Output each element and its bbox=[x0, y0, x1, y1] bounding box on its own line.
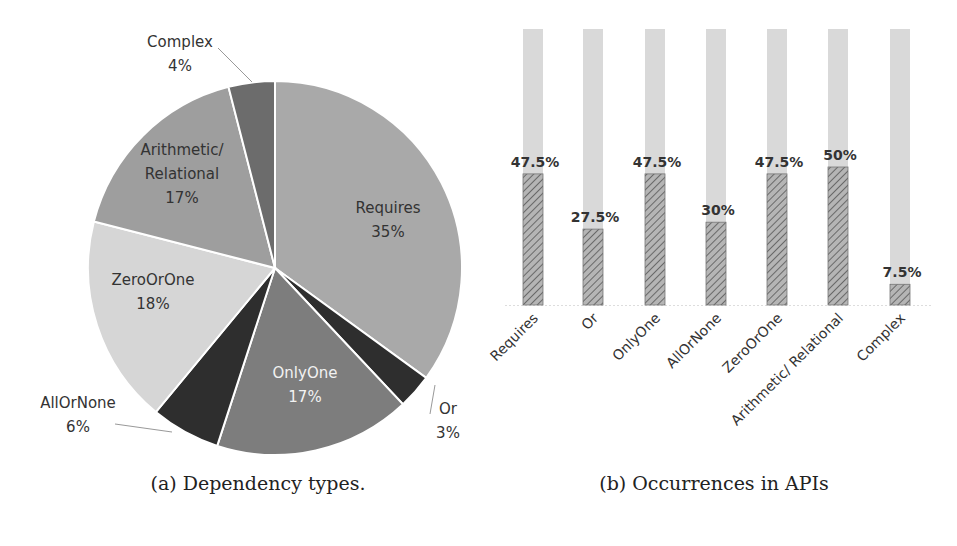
x-tick-label: Requires bbox=[487, 310, 541, 364]
pie-label-complex: Complex4% bbox=[147, 33, 213, 75]
x-tick-label: AllOrNone bbox=[663, 310, 724, 371]
bar-requires bbox=[523, 174, 543, 305]
x-tick-label: Complex bbox=[853, 310, 908, 365]
x-tick-label: ZeroOrOne bbox=[719, 310, 785, 376]
bar-value-label: 27.5% bbox=[571, 209, 620, 225]
bar-value-label: 50% bbox=[823, 147, 857, 163]
bar-or bbox=[583, 229, 603, 305]
bar-onlyone bbox=[645, 174, 665, 305]
caption-b: (b) Occurrences in APIs bbox=[599, 472, 829, 494]
x-tick-label: OnlyOne bbox=[609, 310, 663, 364]
bar-value-label: 30% bbox=[701, 202, 735, 218]
leader-line bbox=[430, 385, 435, 414]
bar-value-label: 47.5% bbox=[511, 154, 560, 170]
bar-value-label: 47.5% bbox=[755, 154, 804, 170]
pie-chart bbox=[88, 81, 462, 455]
pie-label-or: Or3% bbox=[436, 400, 460, 442]
pie-label-allornone: AllOrNone6% bbox=[40, 394, 116, 436]
x-tick-label: Or bbox=[578, 310, 601, 333]
figure: Requires35%Or3%OnlyOne17%AllOrNone6%Zero… bbox=[0, 0, 957, 546]
bar-value-label: 7.5% bbox=[883, 264, 922, 280]
leader-line bbox=[115, 424, 172, 432]
bar-chart: 47.5%Requires27.5%Or47.5%OnlyOne30%AllOr… bbox=[487, 29, 932, 428]
bar-arithmetic-relational bbox=[828, 167, 848, 305]
bar-zeroorone bbox=[767, 174, 787, 305]
bar-value-label: 47.5% bbox=[633, 154, 682, 170]
caption-a: (a) Dependency types. bbox=[151, 472, 366, 494]
leader-line bbox=[218, 48, 252, 82]
bar-complex bbox=[890, 284, 910, 305]
bar-allornone bbox=[706, 222, 726, 305]
x-tick-label: Arithmetic/ Relational bbox=[728, 310, 846, 428]
